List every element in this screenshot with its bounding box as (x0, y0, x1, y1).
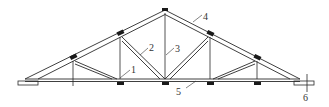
leader-5 (186, 81, 196, 88)
label-6: 6 (303, 92, 308, 103)
web-right-inner (165, 37, 208, 79)
purlin-4 (253, 54, 261, 61)
leader-3 (166, 48, 174, 55)
top-chord-right (165, 10, 300, 79)
bottom-block-4 (254, 82, 261, 85)
purlin-ridge (162, 8, 168, 11)
label-5: 5 (176, 86, 181, 97)
leader-1 (120, 70, 130, 78)
web-right-outer (213, 61, 255, 79)
label-4: 4 (203, 11, 208, 22)
purlin-3 (206, 30, 214, 37)
web-left-inner (122, 37, 165, 79)
leader-4 (193, 15, 202, 22)
label-2: 2 (149, 42, 154, 53)
truss-diagram: 1 2 3 4 5 6 (0, 0, 329, 107)
bottom-block-2 (162, 82, 169, 85)
web-left-outer (75, 61, 117, 79)
bottom-block-1 (117, 82, 124, 85)
top-chord-left (25, 10, 165, 79)
leader-2 (140, 48, 148, 55)
label-1: 1 (131, 64, 136, 75)
bottom-block-3 (207, 82, 214, 85)
label-3: 3 (175, 43, 180, 54)
bottom-chord (25, 79, 300, 82)
